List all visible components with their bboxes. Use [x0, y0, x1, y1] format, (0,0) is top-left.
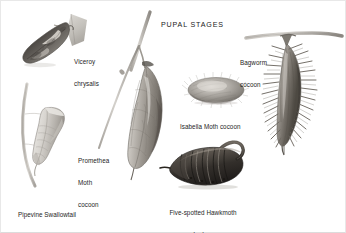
label-pipevine-line-1: Pipevine Swallowtail	[18, 211, 76, 218]
label-promethea-line-2: Moth	[78, 179, 109, 186]
label-hawkmoth-line-1: Five-spotted Hawkmoth	[143, 209, 263, 216]
label-bagworm-line-1: Bagworm	[240, 59, 267, 66]
label-hawkmoth: Five-spotted Hawkmoth naked pupa	[143, 194, 263, 233]
five-spotted-hawkmoth-pupa-icon	[158, 134, 254, 194]
label-viceroy-line-1: Viceroy	[74, 58, 99, 65]
label-hawkmoth-line-2: naked pupa	[143, 231, 263, 233]
label-promethea-line-1: Promethea	[78, 157, 109, 164]
label-bagworm-line-2: cocoon	[240, 81, 267, 88]
label-promethea-line-3: cocoon	[78, 201, 109, 208]
label-promethea: Promethea Moth cocoon	[78, 142, 109, 223]
label-pipevine: Pipevine Swallowtail chrysalis	[18, 196, 76, 233]
label-bagworm: Bagworm cocoon	[240, 44, 267, 103]
label-isabella-line-1: Isabella Moth cocoon	[180, 123, 241, 130]
pupal-stages-plate: PUPAL STAGES	[0, 0, 346, 233]
